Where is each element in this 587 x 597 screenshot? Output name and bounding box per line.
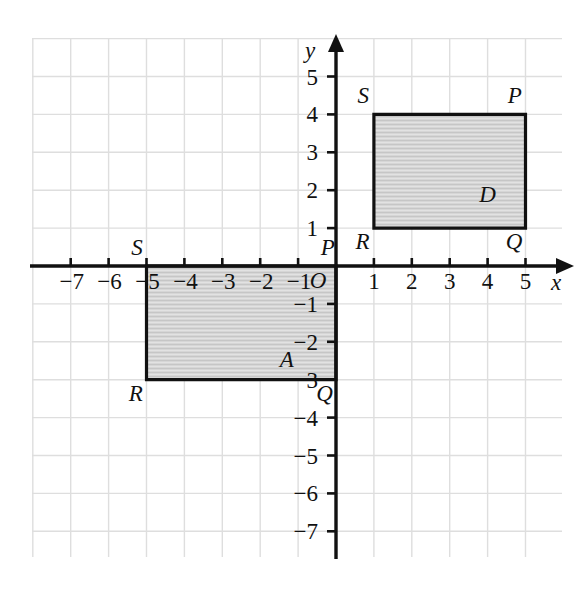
x-tick-label: 2 xyxy=(406,269,418,294)
x-tick-label: 1 xyxy=(368,269,380,294)
x-tick-label: −4 xyxy=(173,269,198,294)
y-tick-label: −6 xyxy=(294,481,318,506)
x-tick-label: 4 xyxy=(482,269,494,294)
y-tick-label: −3 xyxy=(294,368,318,393)
y-tick-label: −4 xyxy=(294,406,319,431)
vertex-label-S: S xyxy=(131,235,143,260)
y-tick-label: −2 xyxy=(294,330,318,355)
y-tick-label: 2 xyxy=(307,178,319,203)
y-tick-label: 5 xyxy=(307,65,319,90)
vertex-label-P: P xyxy=(320,235,335,260)
shape-label-A: A xyxy=(278,347,295,372)
y-axis-label: y xyxy=(303,38,316,63)
x-tick-label: −6 xyxy=(97,269,121,294)
vertex-label-R: R xyxy=(354,229,369,254)
y-tick-label: −1 xyxy=(294,292,318,317)
vertex-label-S: S xyxy=(358,83,370,108)
x-tick-label: −1 xyxy=(287,269,311,294)
vertex-label-R: R xyxy=(128,381,143,406)
shape-label-D: D xyxy=(478,182,496,207)
x-tick-label: 3 xyxy=(444,269,456,294)
y-tick-label: −7 xyxy=(294,519,318,544)
vertex-label-P: P xyxy=(507,83,522,108)
coordinate-plane-svg: −7−6−5−4−3−2−11234554321−1−2−3−4−5−6−7yx… xyxy=(0,0,587,597)
rectangle-D xyxy=(374,114,526,228)
x-axis-label: x xyxy=(550,270,562,295)
origin-label: O xyxy=(310,268,327,293)
y-tick-label: 3 xyxy=(307,140,319,165)
vertex-label-Q: Q xyxy=(506,229,523,254)
x-tick-label: 5 xyxy=(520,269,532,294)
y-tick-label: 4 xyxy=(307,102,319,127)
x-tick-label: −7 xyxy=(59,269,83,294)
x-tick-label: −2 xyxy=(249,269,273,294)
x-tick-label: −3 xyxy=(211,269,235,294)
coordinate-plane-figure: −7−6−5−4−3−2−11234554321−1−2−3−4−5−6−7yx… xyxy=(0,0,587,597)
vertex-label-Q: Q xyxy=(316,381,333,406)
y-tick-label: 1 xyxy=(307,216,319,241)
x-tick-label: −5 xyxy=(135,269,159,294)
y-tick-label: −5 xyxy=(294,444,318,469)
